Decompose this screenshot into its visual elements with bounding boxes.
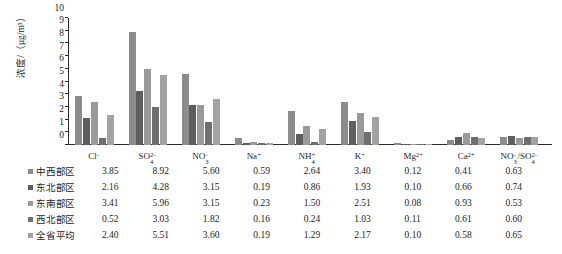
legend-table-cell: 3.03	[152, 211, 202, 227]
bar	[524, 137, 531, 145]
legend-table-cell: 0.86	[304, 179, 354, 195]
legend-series-name: 西北部区	[28, 211, 102, 227]
bar-group: Cl-	[68, 18, 121, 145]
y-tick-label: 7	[59, 42, 64, 52]
bar	[311, 142, 318, 145]
bar	[364, 132, 371, 145]
bar-group: NO-3	[174, 18, 227, 145]
legend-table-cell: 0.10	[405, 179, 455, 195]
bar	[99, 138, 106, 145]
bar-chart: 浓度/（μg/m³） 012345678910 Cl-SO2-4NO-3Na+N…	[0, 0, 562, 160]
bar	[243, 143, 250, 145]
figure-container: 浓度/（μg/m³） 012345678910 Cl-SO2-4NO-3Na+N…	[0, 0, 562, 254]
x-tick-label: NH+4	[280, 152, 333, 161]
bar	[83, 118, 90, 145]
legend-series-name: 全省平均	[28, 227, 102, 243]
legend-table-cell: 3.15	[203, 195, 253, 211]
bar-group: SO2-4	[121, 18, 174, 145]
y-tick-label: 10	[55, 4, 65, 14]
x-tick-label: Na+	[227, 152, 280, 161]
legend-table-cell: 0.59	[253, 163, 303, 179]
legend-table-cell: 0.41	[455, 163, 505, 179]
bar	[250, 142, 257, 145]
legend-series-name: 东北部区	[28, 179, 102, 195]
legend-table-row: 全省平均2.405.513.600.191.292.170.100.580.65	[28, 227, 556, 243]
legend-table-row: 东南部区3.415.963.150.231.502.510.080.930.53	[28, 195, 556, 211]
y-tick-label: 0	[59, 131, 64, 141]
legend-table-cell: 0.19	[253, 227, 303, 243]
y-tick-label: 6	[59, 55, 64, 65]
legend-color-swatch	[28, 169, 33, 174]
bar	[182, 74, 189, 145]
legend-table-cell: 3.41	[102, 195, 152, 211]
bar	[341, 102, 348, 145]
legend-table-cell: 0.08	[405, 195, 455, 211]
legend-table-cell: 5.96	[152, 195, 202, 211]
legend-table-cell: 3.40	[354, 163, 404, 179]
legend-label-text: 全省平均	[36, 230, 75, 241]
legend-table-cell: 0.60	[505, 211, 556, 227]
legend-table-cell: 1.03	[354, 211, 404, 227]
y-tick-label: 8	[59, 29, 64, 39]
bar	[447, 140, 454, 145]
legend-table-cell: 2.51	[354, 195, 404, 211]
legend-table-cell: 0.52	[102, 211, 152, 227]
bar	[372, 117, 379, 145]
bar	[455, 137, 462, 145]
bar	[319, 129, 326, 145]
legend-table-cell: 0.93	[455, 195, 505, 211]
legend-table-cell: 1.82	[203, 211, 253, 227]
legend-table-cell: 0.24	[304, 211, 354, 227]
legend-label-text: 西北部区	[36, 214, 75, 225]
y-tick-label: 1	[59, 118, 64, 128]
legend-table-cell: 0.19	[253, 179, 303, 195]
legend-table-cell: 0.63	[505, 163, 556, 179]
legend-table-row: 西北部区0.523.031.820.160.241.030.110.610.60	[28, 211, 556, 227]
bar	[516, 138, 523, 145]
legend-color-swatch	[28, 185, 33, 190]
bar-group: NH+4	[280, 18, 333, 145]
bar	[91, 102, 98, 145]
bar	[425, 144, 432, 145]
legend-table-cell: 2.16	[102, 179, 152, 195]
bar-groups: Cl-SO2-4NO-3Na+NH+4K+Mg2+Ca2+NO-3/SO2-4	[68, 18, 546, 145]
bar	[410, 144, 417, 145]
legend-table-cell: 0.58	[455, 227, 505, 243]
plot-area: 012345678910 Cl-SO2-4NO-3Na+NH+4K+Mg2+Ca…	[68, 18, 546, 145]
bar	[189, 105, 196, 145]
bar	[160, 75, 167, 145]
bar	[152, 107, 159, 145]
legend-table-body: 中西部区3.858.925.600.592.643.400.120.410.63…	[28, 163, 556, 243]
bar	[349, 121, 356, 146]
legend-table-cell: 0.10	[405, 227, 455, 243]
x-tick-label: Mg2+	[387, 152, 440, 161]
legend-color-swatch	[28, 233, 33, 238]
legend-table-cell: 1.29	[304, 227, 354, 243]
legend-table-row: 东北部区2.164.283.150.190.861.930.100.660.74	[28, 179, 556, 195]
legend-table-cell: 3.60	[203, 227, 253, 243]
bar-group: NO-3/SO2-4	[493, 18, 546, 145]
legend-table-cell: 1.93	[354, 179, 404, 195]
bar	[463, 133, 470, 145]
x-tick-label: NO-3/SO2-4	[493, 152, 546, 161]
bar-group: K+	[334, 18, 387, 145]
legend-table-cell: 0.53	[505, 195, 556, 211]
bar	[107, 115, 114, 145]
legend-table-cell: 3.85	[102, 163, 152, 179]
legend-table-cell: 0.61	[455, 211, 505, 227]
x-tick-label: Cl-	[68, 152, 121, 161]
bar	[402, 144, 409, 145]
x-tick-label: K+	[334, 152, 387, 161]
legend-table-cell: 5.51	[152, 227, 202, 243]
bar-group: Na+	[227, 18, 280, 145]
legend-color-swatch	[28, 217, 33, 222]
bar	[75, 96, 82, 145]
y-axis-label: 浓度/（μg/m³）	[13, 0, 27, 95]
legend-table-cell: 1.50	[304, 195, 354, 211]
bar	[197, 105, 204, 145]
legend-table-cell: 0.23	[253, 195, 303, 211]
legend-series-name: 东南部区	[28, 195, 102, 211]
bar	[357, 113, 364, 145]
bar	[136, 91, 143, 145]
legend-series-name: 中西部区	[28, 163, 102, 179]
